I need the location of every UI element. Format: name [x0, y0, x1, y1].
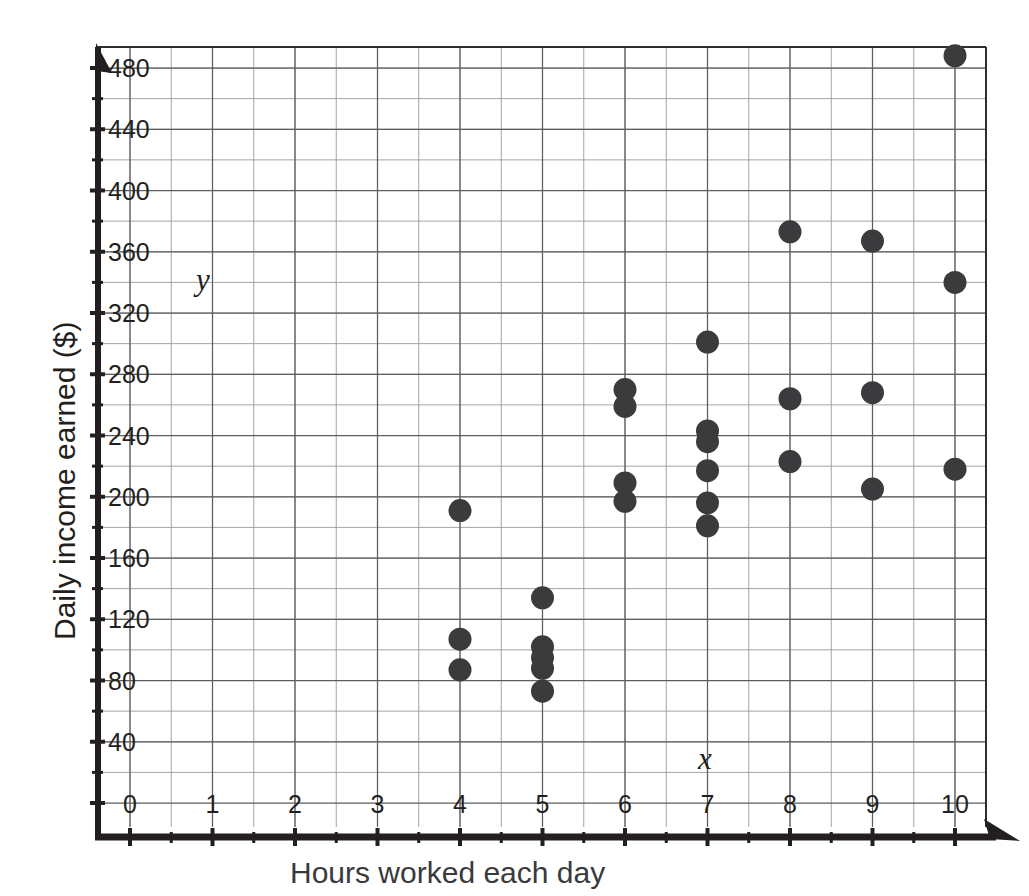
y-tick-label: 400 [108, 177, 150, 205]
x-tick-label: 1 [206, 790, 220, 818]
x-tick-label: 2 [288, 790, 302, 818]
x-tick-label: 8 [783, 790, 797, 818]
x-tick-label: 3 [371, 790, 385, 818]
y-tick-label: 40 [108, 728, 136, 756]
x-tick-labels: 012345678910 [123, 790, 969, 818]
data-point [944, 271, 967, 294]
data-point [779, 220, 802, 243]
y-tick-label: 160 [108, 544, 150, 572]
y-tick-label: 440 [108, 115, 150, 143]
axis-arrow-icon [96, 43, 1020, 841]
axis-lines [95, 47, 996, 839]
data-point [449, 658, 472, 681]
data-point [696, 459, 719, 482]
plot-canvas: 4080120160200240280320360400440480012345… [0, 0, 1029, 896]
axis-ticks [90, 68, 955, 846]
y-tick-label: 320 [108, 299, 150, 327]
y-tick-label: 280 [108, 360, 150, 388]
x-tick-label: 4 [453, 790, 467, 818]
data-point [779, 387, 802, 410]
data-point [944, 458, 967, 481]
data-point [449, 499, 472, 522]
data-point [449, 628, 472, 651]
y-tick-label: 200 [108, 483, 150, 511]
x-tick-label: 10 [941, 790, 969, 818]
data-point [614, 395, 637, 418]
y-tick-label: 240 [108, 422, 150, 450]
major-gridlines [98, 47, 986, 827]
x-tick-label: 0 [123, 790, 137, 818]
data-point [944, 44, 967, 67]
data-point [696, 331, 719, 354]
x-tick-label: 5 [536, 790, 550, 818]
x-tick-label: 7 [701, 790, 715, 818]
y-tick-label: 360 [108, 238, 150, 266]
data-point [696, 491, 719, 514]
x-tick-label: 9 [866, 790, 880, 818]
data-point [779, 450, 802, 473]
y-variable-label: y [193, 262, 210, 297]
scatter-plot-figure: 4080120160200240280320360400440480012345… [0, 0, 1029, 896]
data-point [531, 680, 554, 703]
y-axis-title: Daily income earned ($) [48, 322, 82, 640]
x-variable-label: x [697, 741, 712, 776]
y-tick-label: 480 [108, 54, 150, 82]
data-point [614, 490, 637, 513]
y-tick-label: 80 [108, 667, 136, 695]
y-tick-label: 120 [108, 605, 150, 633]
data-point [861, 478, 884, 501]
data-point [531, 586, 554, 609]
data-point [861, 381, 884, 404]
data-point [696, 430, 719, 453]
data-point [531, 657, 554, 680]
x-axis-title: Hours worked each day [290, 856, 605, 890]
x-tick-label: 6 [618, 790, 632, 818]
data-point [861, 230, 884, 253]
data-point [696, 514, 719, 537]
